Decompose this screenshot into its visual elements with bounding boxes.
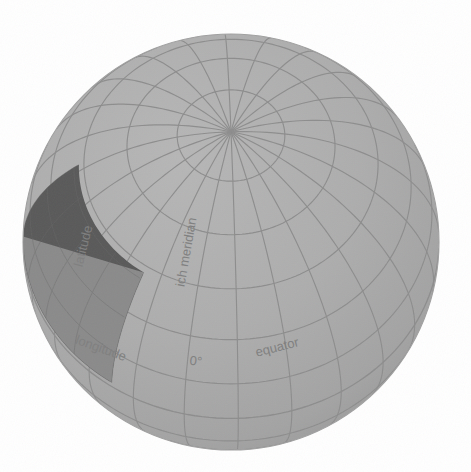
globe-graphic (0, 0, 471, 472)
globe-figure: latitude longitude 0° ich meridian equat… (0, 0, 471, 472)
